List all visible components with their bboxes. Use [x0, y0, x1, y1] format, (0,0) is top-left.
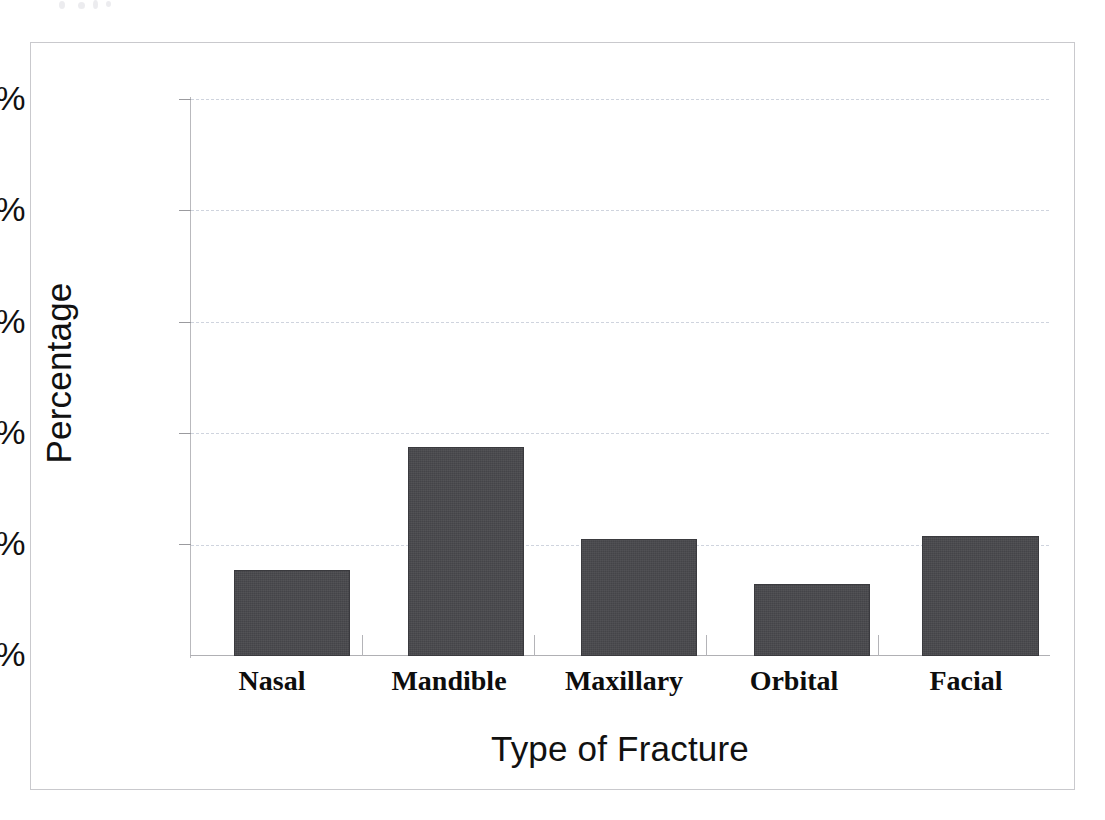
y-axis-label-80: 80%	[0, 192, 25, 226]
y-axis-tick-40	[179, 433, 191, 434]
x-axis-label-nasal: Nasal	[192, 667, 352, 695]
x-axis-tick-1	[362, 635, 363, 656]
y-axis-label-20: 20%	[0, 526, 25, 560]
y-axis-tick-100	[179, 99, 191, 100]
x-axis-label-orbital: Orbital	[710, 667, 878, 695]
x-axis-title: Type of Fracture	[191, 729, 1049, 769]
scan-artifact-speck	[106, 1, 111, 7]
bar-facial[interactable]	[922, 536, 1039, 656]
x-axis-tick-2	[534, 635, 535, 656]
chart-figure-frame: 100% 80% 60% 40% 20% 0% Percentage Nasal	[30, 42, 1075, 790]
bar-maxillary[interactable]	[581, 539, 697, 656]
bar-nasal[interactable]	[234, 570, 350, 656]
y-axis-tick-60	[179, 322, 191, 323]
gridline-60	[191, 322, 1049, 323]
gridline-100	[191, 99, 1049, 100]
x-axis-label-mandible: Mandible	[356, 667, 542, 695]
x-axis-tick-3	[706, 635, 707, 656]
page-canvas: 100% 80% 60% 40% 20% 0% Percentage Nasal	[0, 0, 1105, 820]
scan-artifact-speck	[93, 0, 98, 9]
bar-mandible[interactable]	[408, 447, 524, 656]
y-axis-tick-80	[179, 210, 191, 211]
y-axis-label-0: 0%	[0, 637, 25, 671]
scan-artifact-speck	[59, 1, 65, 9]
y-axis-title: Percentage	[39, 123, 79, 623]
y-axis-label-100: 100%	[0, 81, 25, 115]
y-axis-label-40: 40%	[0, 415, 25, 449]
x-axis-label-facial: Facial	[882, 667, 1050, 695]
plot-area	[191, 99, 1049, 656]
y-axis-label-60: 60%	[0, 304, 25, 338]
x-axis-label-maxillary: Maxillary	[536, 667, 712, 695]
bar-orbital[interactable]	[754, 584, 870, 656]
y-axis-tick-20	[179, 544, 191, 545]
scan-artifact-speck	[78, 2, 85, 9]
gridline-40	[191, 433, 1049, 434]
gridline-80	[191, 210, 1049, 211]
x-axis-tick-4	[878, 635, 879, 656]
